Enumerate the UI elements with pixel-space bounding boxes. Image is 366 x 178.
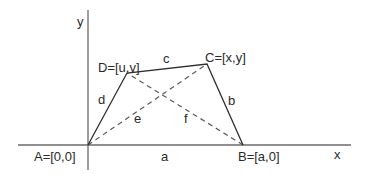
side-c-label: c	[163, 51, 170, 66]
side-b-label: b	[228, 93, 235, 108]
side-a-label: a	[161, 149, 169, 164]
side-d-label: d	[98, 92, 105, 107]
diagonal-f-bd	[127, 73, 243, 145]
y-axis-label: y	[77, 14, 84, 29]
vertex-c-label: C=[x,y]	[205, 50, 246, 65]
vertex-d-label: D=[u,v]	[98, 60, 140, 75]
quadrilateral-sides	[88, 64, 243, 145]
quadrilateral-diagram: y x A=[0,0] B=[a,0] C=[x,y] D=[u,v] a b …	[0, 0, 366, 178]
diagonal-e-label: e	[134, 111, 141, 126]
vertex-b-label: B=[a,0]	[238, 149, 280, 164]
diagonal-e-ac	[88, 64, 207, 145]
vertex-a-label: A=[0,0]	[34, 149, 76, 164]
diagonal-f-label: f	[184, 111, 188, 126]
x-axis-label: x	[334, 147, 341, 162]
